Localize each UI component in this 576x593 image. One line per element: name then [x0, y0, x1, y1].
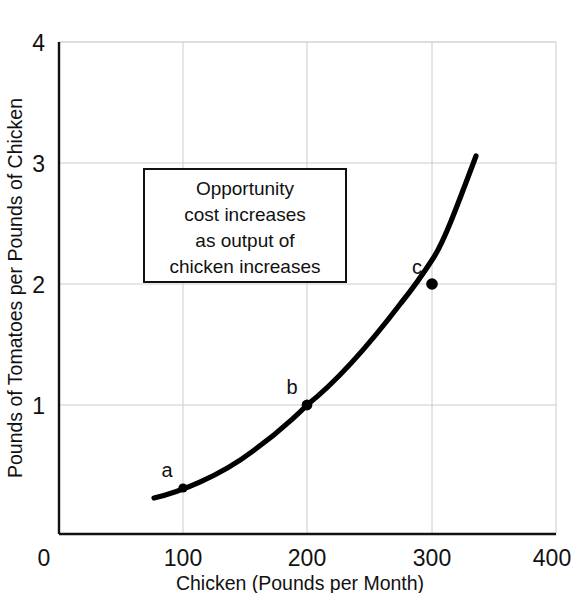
opportunity-cost-chart: a b c Opportunity cost increases as outp… [0, 0, 576, 593]
data-point-label-c: c [412, 256, 422, 278]
data-point-label-b: b [286, 376, 297, 398]
data-point-b [302, 400, 313, 411]
chart-figure: a b c Opportunity cost increases as outp… [0, 0, 576, 593]
annotation-line-1: Opportunity [196, 178, 295, 199]
annotation-line-4: chicken increases [169, 256, 320, 277]
x-tick-label-300: 300 [413, 545, 451, 571]
data-point-label-a: a [161, 459, 173, 481]
annotation-line-3: as output of [195, 230, 295, 251]
x-tick-label-200: 200 [288, 545, 326, 571]
x-axis-title: Chicken (Pounds per Month) [176, 572, 424, 593]
data-point-c [426, 278, 438, 290]
y-tick-label-1: 1 [32, 393, 45, 419]
y-tick-label-2: 2 [32, 272, 45, 298]
y-axis-title: Pounds of Tomatoes per Pounds of Chicken [4, 98, 26, 478]
y-tick-label-4: 4 [32, 30, 45, 56]
data-point-a [178, 483, 187, 492]
annotation-line-2: cost increases [184, 204, 305, 225]
x-tick-label-400: 400 [533, 545, 571, 571]
x-tick-label-100: 100 [164, 545, 202, 571]
y-tick-label-3: 3 [32, 151, 45, 177]
x-tick-label-0: 0 [38, 545, 51, 571]
